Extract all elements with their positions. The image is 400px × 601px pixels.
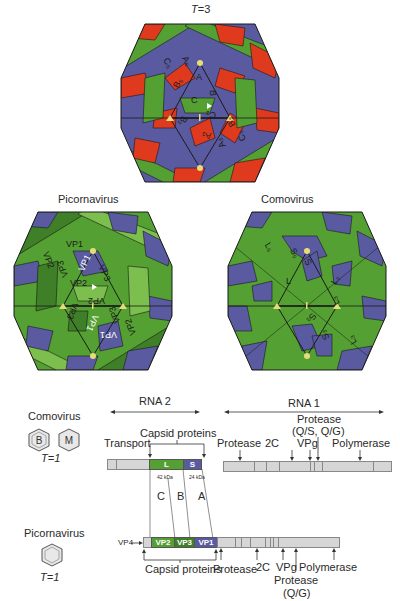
domain-A-label: A bbox=[198, 490, 205, 502]
picornavirus-capsid-title: Picornavirus bbox=[58, 193, 119, 205]
t3-title-suffix: =3 bbox=[198, 3, 211, 15]
m-label: M bbox=[65, 435, 73, 446]
capsid-proteins-label-top: Capsid proteins bbox=[140, 427, 216, 439]
pico-divider bbox=[273, 538, 274, 547]
rna1-divider bbox=[310, 462, 311, 471]
t3-title: T=3 bbox=[191, 3, 210, 15]
picornavirus-t-number: T=1 bbox=[40, 571, 59, 583]
pico-vpg-label: VPg bbox=[276, 561, 297, 573]
pico-divider bbox=[235, 538, 236, 547]
pico-segment-vp2: VP2 bbox=[151, 537, 175, 548]
rna1-protease-label: Protease bbox=[217, 437, 261, 449]
pico-polymerase-label: Polymerase bbox=[299, 561, 357, 573]
rna1-label: RNA 1 bbox=[288, 397, 320, 409]
capsid-bracket-top bbox=[148, 440, 208, 460]
t3-label-A2: A₂ bbox=[202, 131, 212, 141]
como-label-L: L bbox=[286, 276, 291, 286]
rna2-label: RNA 2 bbox=[139, 395, 171, 407]
vp4-arrow bbox=[131, 540, 143, 546]
comovirus-m-particle-icon: M bbox=[58, 428, 80, 452]
fivefold-marker-top bbox=[197, 60, 203, 66]
pico-divider bbox=[250, 538, 251, 547]
rna1-divider bbox=[279, 462, 280, 471]
capsid-proteins-label-bottom: Capsid proteins bbox=[145, 563, 221, 575]
pico-label-vp2-c: VP2 bbox=[88, 296, 105, 306]
rna1-protease2-line1: Protease bbox=[297, 413, 341, 425]
rna1-2c-label: 2C bbox=[265, 437, 279, 449]
picornavirus-capsid-diagram bbox=[8, 206, 178, 376]
rna1-divider bbox=[314, 462, 315, 471]
pico-protease2-line1: Protease bbox=[274, 574, 318, 586]
rna1-polymerase-label: Polymerase bbox=[332, 437, 390, 449]
fivefold-marker-bottom bbox=[304, 353, 310, 359]
rna1-protease2-line2: (Q/S, Q/G) bbox=[292, 425, 345, 437]
rna2-genome-bar: L S bbox=[107, 459, 207, 469]
domain-C-label: C bbox=[157, 490, 165, 502]
t3-label-C2: C₂ bbox=[206, 110, 216, 120]
rna1-genome-bar bbox=[223, 461, 392, 472]
rna1-vpg-label: VPg bbox=[297, 437, 318, 449]
fivefold-marker-bottom bbox=[90, 353, 96, 359]
pico-segment-vp1: VP1 bbox=[194, 537, 218, 548]
rna1-divider bbox=[373, 462, 374, 471]
twofold-marker bbox=[306, 302, 308, 309]
t3-label-A: A bbox=[196, 72, 202, 82]
pico-divider bbox=[278, 538, 279, 547]
pico-label-vp2-b: VP2 bbox=[70, 278, 87, 288]
pico-2c-label: 2C bbox=[256, 561, 270, 573]
twofold-marker bbox=[199, 114, 201, 121]
capsid-bracket-bottom bbox=[142, 549, 222, 563]
comovirus-legend-title: Comovirus bbox=[28, 410, 81, 422]
fivefold-marker-bottom bbox=[197, 165, 203, 171]
pico-protease2-line2: (Q/G) bbox=[283, 587, 311, 599]
pico-label-vp1-d: VP1 bbox=[100, 330, 117, 340]
transport-label: Transport bbox=[104, 437, 151, 449]
pico-segment-nonstructural bbox=[217, 537, 340, 548]
pico-divider bbox=[241, 538, 242, 547]
pico-segment-vp3: VP3 bbox=[174, 537, 195, 548]
fivefold-marker-top bbox=[90, 248, 96, 254]
comovirus-capsid-diagram bbox=[222, 206, 392, 376]
rna1-divider bbox=[322, 462, 323, 471]
rna1-divider bbox=[266, 462, 267, 471]
pico-divider bbox=[265, 538, 266, 547]
comovirus-capsid-title: Comovirus bbox=[261, 193, 314, 205]
rna1-divider bbox=[254, 462, 255, 471]
b-label: B bbox=[36, 435, 43, 446]
fivefold-marker-top bbox=[304, 248, 310, 254]
comovirus-b-particle-icon: B bbox=[28, 428, 50, 452]
picornavirus-genome-bar: VP2 VP3 VP1 bbox=[143, 537, 348, 547]
pico-protease-label: Protease bbox=[213, 563, 257, 575]
pico-divider bbox=[270, 538, 271, 547]
comovirus-t-number: T=1 bbox=[41, 452, 60, 464]
t3-capsid-diagram bbox=[115, 18, 285, 188]
picornavirus-particle-icon bbox=[41, 543, 63, 567]
t3-label-B: B bbox=[208, 90, 218, 96]
t3-label-C: C bbox=[191, 95, 198, 105]
domain-B-label: B bbox=[177, 490, 184, 502]
picornavirus-legend-title: Picornavirus bbox=[24, 527, 85, 539]
rna2-span-arrow bbox=[110, 408, 200, 416]
t3-title-italic: T bbox=[191, 3, 198, 15]
pico-label-vp1-a: VP1 bbox=[66, 239, 83, 249]
